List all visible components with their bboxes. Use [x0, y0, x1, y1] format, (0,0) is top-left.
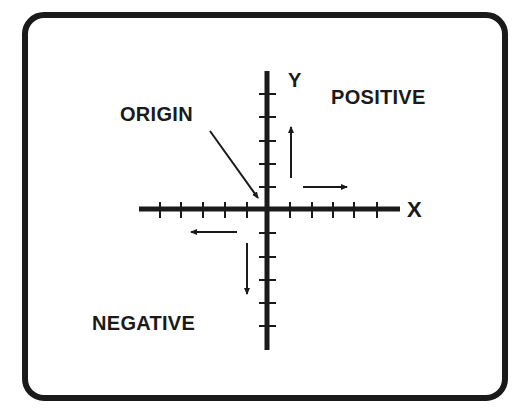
origin-pointer-arrow-icon: [210, 131, 258, 198]
negative-label: NEGATIVE: [92, 313, 195, 333]
positive-label: POSITIVE: [331, 87, 426, 107]
coordinate-axes-diagram: [0, 0, 525, 412]
y-axis-label: Y: [288, 70, 302, 90]
origin-label: ORIGIN: [120, 104, 193, 124]
x-axis-label: X: [407, 199, 422, 221]
